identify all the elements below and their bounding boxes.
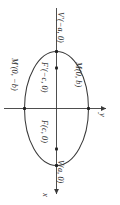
- focus-upper-marker: [55, 67, 58, 70]
- y-axis-label: y: [99, 113, 108, 117]
- vertex-upper-label: V'(−a, 0): [56, 12, 64, 43]
- covertex-right-marker: [87, 107, 90, 110]
- vertex-upper-marker: [55, 50, 58, 53]
- covertex-left-marker: [23, 107, 26, 110]
- covertex-left-label: M'(0, −b): [10, 58, 18, 91]
- x-axis-label: x: [42, 193, 51, 197]
- vertex-lower-label: V(a, 0): [56, 160, 64, 183]
- focus-lower-marker: [55, 148, 58, 151]
- focus-upper-label: F'(−c, 0): [40, 62, 48, 92]
- covertex-right-label: M(0, b): [74, 62, 82, 87]
- ellipse-figure: V'(−a, 0) V(a, 0) F'(−c, 0) F(c, 0) M(0,…: [0, 0, 120, 205]
- focus-lower-label: F(c, 0): [40, 120, 48, 143]
